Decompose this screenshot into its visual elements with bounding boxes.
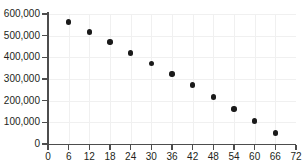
x-axis-tick [275, 145, 276, 150]
scatter-chart: 0100,000200,000300,000400,000500,000600,… [0, 0, 302, 168]
x-axis-tick [47, 145, 48, 150]
gridline-vertical [69, 14, 70, 144]
x-axis-tick [254, 145, 255, 150]
y-axis-tick [42, 35, 47, 36]
x-axis-tick [192, 145, 193, 150]
x-axis-tick [233, 145, 234, 150]
x-axis-tick-label: 54 [228, 152, 239, 162]
plot-area [48, 14, 296, 144]
gridline-vertical [275, 14, 276, 144]
x-axis-tick-label: 6 [66, 152, 72, 162]
y-axis-tick-label: 300,000 [4, 74, 40, 84]
x-axis-tick-label: 0 [45, 152, 51, 162]
gridline-vertical [131, 14, 132, 144]
y-axis-tick [42, 122, 47, 123]
x-axis-tick-label: 36 [166, 152, 177, 162]
gridline-vertical [172, 14, 173, 144]
y-axis-tick [42, 13, 47, 14]
x-axis-tick [151, 145, 152, 150]
y-axis-tick-label: 100,000 [4, 117, 40, 127]
y-axis-tick-label: 600,000 [4, 9, 40, 19]
x-axis-tick-label: 24 [125, 152, 136, 162]
data-point [107, 39, 112, 44]
x-axis-tick-label: 60 [249, 152, 260, 162]
y-axis-tick-label: 500,000 [4, 31, 40, 41]
data-point [231, 106, 236, 111]
x-axis-tick-label: 72 [290, 152, 301, 162]
x-axis-tick [213, 145, 214, 150]
x-axis-tick [295, 145, 296, 150]
y-axis-tick [42, 100, 47, 101]
data-point [273, 130, 278, 135]
data-point [66, 19, 71, 24]
gridline-vertical [234, 14, 235, 144]
y-axis-tick [42, 57, 47, 58]
x-axis-tick [89, 145, 90, 150]
x-axis-tick [109, 145, 110, 150]
y-axis-line [47, 12, 49, 145]
data-point [169, 71, 174, 76]
gridline-vertical [255, 14, 256, 144]
x-axis-tick-label: 66 [270, 152, 281, 162]
x-axis-tick [68, 145, 69, 150]
data-point [211, 94, 216, 99]
y-axis-tick [42, 78, 47, 79]
x-axis-tick [130, 145, 131, 150]
x-axis-tick-label: 12 [84, 152, 95, 162]
y-axis-tick-label: 200,000 [4, 96, 40, 106]
x-axis-tick-label: 48 [208, 152, 219, 162]
data-point [252, 118, 257, 123]
gridline-vertical [151, 14, 152, 144]
x-axis-tick-label: 42 [187, 152, 198, 162]
x-axis-tick-label: 18 [104, 152, 115, 162]
x-axis-tick [171, 145, 172, 150]
y-axis-tick-label: 400,000 [4, 52, 40, 62]
data-point [128, 50, 133, 55]
y-axis-tick-label: 0 [34, 139, 40, 149]
x-axis-tick-label: 30 [146, 152, 157, 162]
y-axis-tick [42, 143, 47, 144]
gridline-vertical [213, 14, 214, 144]
gridline-vertical [193, 14, 194, 144]
gridline-vertical [110, 14, 111, 144]
data-point [87, 29, 92, 34]
